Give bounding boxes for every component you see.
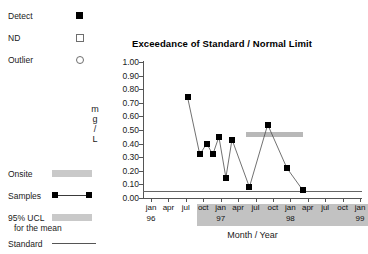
data-point-marker — [210, 151, 216, 157]
data-point-marker — [197, 151, 203, 157]
y-tick — [139, 103, 143, 104]
chart-area: Exceedance of Standard / Normal Limit m … — [0, 0, 368, 254]
y-tick — [139, 62, 143, 63]
y-tick — [139, 76, 143, 77]
y-tick — [139, 184, 143, 185]
y-tick — [139, 89, 143, 90]
y-tick — [139, 171, 143, 172]
data-point-marker — [223, 175, 229, 181]
y-tick — [139, 157, 143, 158]
data-point-marker — [185, 94, 191, 100]
y-tick — [139, 130, 143, 131]
data-point-marker — [204, 141, 210, 147]
series-line-layer — [0, 0, 368, 254]
data-point-marker — [216, 134, 222, 140]
y-tick — [139, 144, 143, 145]
data-point-marker — [229, 137, 235, 143]
data-point-marker — [246, 184, 252, 190]
y-tick — [139, 116, 143, 117]
chart-page: Detect ND Outlier Onsite Samples — [0, 0, 368, 254]
y-tick — [139, 198, 143, 199]
data-point-marker — [284, 165, 290, 171]
data-point-marker — [300, 187, 306, 193]
data-point-marker — [265, 122, 271, 128]
